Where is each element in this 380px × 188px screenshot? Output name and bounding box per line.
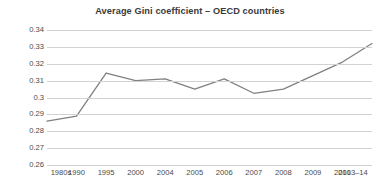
gridline: [47, 114, 372, 115]
x-axis-tick-label: 1995: [98, 168, 115, 177]
gridline: [47, 30, 372, 31]
gridline: [47, 131, 372, 132]
y-axis-tick-label: 0.26: [0, 161, 44, 169]
y-axis-tick-label: 0.32: [0, 60, 44, 68]
x-axis-tick-label: 2009: [304, 168, 321, 177]
y-axis-tick-label: 0.34: [0, 26, 44, 34]
gridline: [47, 98, 372, 99]
y-axis-tick-label: 0.31: [0, 77, 44, 85]
series-polyline: [47, 44, 372, 122]
gridline: [47, 148, 372, 149]
y-axis-tick-label: 0.29: [0, 110, 44, 118]
x-axis-tick-label: 2004: [157, 168, 174, 177]
x-axis-tick-label: 2008: [275, 168, 292, 177]
x-axis-tick-label: 1990: [68, 168, 85, 177]
x-axis-tick-label: 2013–14: [338, 168, 368, 177]
plot-area: [47, 30, 372, 165]
y-axis-tick-label: 0.33: [0, 43, 44, 51]
x-axis-tick-label: 2005: [186, 168, 203, 177]
x-axis-tick-label: 2006: [216, 168, 233, 177]
y-axis-tick-label: 0.27: [0, 144, 44, 152]
chart-title: Average Gini coefficient – OECD countrie…: [0, 6, 380, 16]
x-axis-tick-label: 2000: [127, 168, 144, 177]
gridline: [47, 64, 372, 65]
y-axis-tick-label: 0.3: [0, 94, 44, 102]
y-axis-tick-label: 0.28: [0, 127, 44, 135]
y-axis: 0.340.330.320.310.30.290.280.270.26: [0, 23, 44, 172]
x-axis-tick-label: 2007: [245, 168, 262, 177]
chart-container: Average Gini coefficient – OECD countrie…: [0, 0, 380, 188]
x-axis: 1980s19901995200020042005200620072008200…: [47, 168, 372, 182]
gridline: [47, 165, 372, 166]
gridline: [47, 47, 372, 48]
gridline: [47, 81, 372, 82]
